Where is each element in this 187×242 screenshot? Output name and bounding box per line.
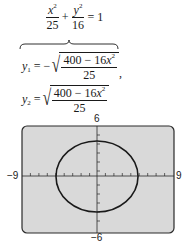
screen-background bbox=[22, 126, 174, 233]
graphing-calculator-screen bbox=[0, 0, 187, 242]
